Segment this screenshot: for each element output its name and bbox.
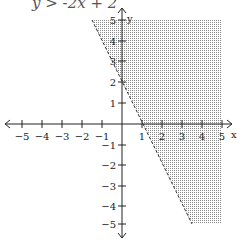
svg-text:−3: −3: [101, 181, 116, 192]
svg-text:−4: −4: [101, 201, 116, 212]
svg-text:−2: −2: [101, 160, 116, 171]
svg-text:−5: −5: [15, 131, 30, 142]
svg-text:2: 2: [159, 131, 165, 142]
svg-text:5: 5: [110, 15, 116, 26]
svg-text:−1: −1: [101, 140, 116, 151]
svg-text:1: 1: [110, 98, 116, 109]
svg-text:4: 4: [110, 36, 116, 47]
y-axis-label: y: [126, 13, 133, 24]
coordinate-plane: −5 −4 −3 −2 −1 1 2 3 4 5 x 5 4 3 2 1 −1 …: [0, 0, 241, 248]
svg-text:3: 3: [179, 131, 185, 142]
svg-text:−4: −4: [35, 131, 50, 142]
x-axis-label: x: [231, 129, 237, 140]
svg-text:−3: −3: [55, 131, 70, 142]
svg-text:−2: −2: [75, 131, 90, 142]
svg-text:4: 4: [199, 131, 205, 142]
svg-text:5: 5: [219, 131, 225, 142]
svg-text:1: 1: [139, 131, 145, 142]
svg-text:−5: −5: [101, 219, 116, 230]
svg-text:3: 3: [110, 56, 116, 67]
svg-text:2: 2: [110, 77, 116, 88]
